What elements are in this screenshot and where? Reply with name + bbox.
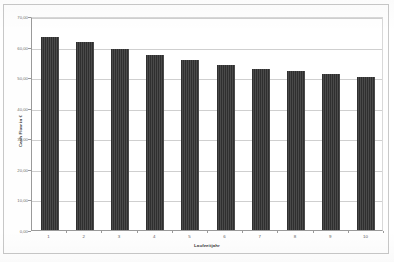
bar[interactable] <box>76 42 94 230</box>
bar-slot <box>32 18 67 230</box>
x-tick-label: 5 <box>188 234 190 239</box>
bar-slot <box>278 18 313 230</box>
x-tick-mark <box>137 231 138 233</box>
x-axis-title: Laufzeitjahr <box>31 243 383 248</box>
bar-slot <box>208 18 243 230</box>
x-tick-mark <box>172 231 173 233</box>
y-tick-mark <box>28 109 31 110</box>
x-tick-label: 2 <box>83 234 85 239</box>
y-tick-mark <box>28 170 31 171</box>
x-tick-mark <box>313 231 314 233</box>
x-tick-mark <box>101 231 102 233</box>
bar-slot <box>173 18 208 230</box>
bar-slot <box>349 18 384 230</box>
plot-area <box>31 17 383 231</box>
y-tick-label: 0,00 <box>2 229 28 234</box>
bar[interactable] <box>181 60 199 230</box>
bar-slot <box>102 18 137 230</box>
y-tick-label: 30,00 <box>2 137 28 142</box>
y-tick-label: 50,00 <box>2 76 28 81</box>
bar[interactable] <box>146 55 164 230</box>
x-tick-mark <box>242 231 243 233</box>
bar-slot <box>243 18 278 230</box>
y-tick-label: 10,00 <box>2 198 28 203</box>
bar-chart-figure: Cash Flow in € 0,0010,0020,0030,0040,005… <box>0 0 394 262</box>
x-tick-label: 9 <box>329 234 331 239</box>
x-tick-label: 3 <box>118 234 120 239</box>
bar[interactable] <box>217 65 235 230</box>
bar-slot <box>138 18 173 230</box>
bar-slot <box>67 18 102 230</box>
bar-slot <box>314 18 349 230</box>
y-tick-label: 60,00 <box>2 45 28 50</box>
x-tick-label: 1 <box>47 234 49 239</box>
x-tick-mark <box>383 231 384 233</box>
y-tick-label: 40,00 <box>2 106 28 111</box>
y-tick-mark <box>28 231 31 232</box>
bar[interactable] <box>287 71 305 230</box>
y-tick-mark <box>28 200 31 201</box>
x-tick-label: 6 <box>223 234 225 239</box>
bar[interactable] <box>111 49 129 230</box>
x-tick-mark <box>348 231 349 233</box>
y-tick-label: 20,00 <box>2 167 28 172</box>
x-tick-mark <box>66 231 67 233</box>
y-tick-mark <box>28 17 31 18</box>
x-tick-mark <box>277 231 278 233</box>
x-tick-label: 7 <box>259 234 261 239</box>
x-tick-label: 8 <box>294 234 296 239</box>
bar[interactable] <box>322 74 340 230</box>
y-tick-mark <box>28 139 31 140</box>
x-tick-label: 10 <box>363 234 368 239</box>
y-tick-mark <box>28 78 31 79</box>
y-axis-title: Cash Flow in € <box>18 115 23 147</box>
y-tick-label: 70,00 <box>2 15 28 20</box>
y-tick-mark <box>28 48 31 49</box>
x-tick-label: 4 <box>153 234 155 239</box>
x-tick-mark <box>207 231 208 233</box>
bar[interactable] <box>357 77 375 230</box>
bar[interactable] <box>252 69 270 230</box>
bar[interactable] <box>41 37 59 230</box>
bars-group <box>32 18 382 230</box>
